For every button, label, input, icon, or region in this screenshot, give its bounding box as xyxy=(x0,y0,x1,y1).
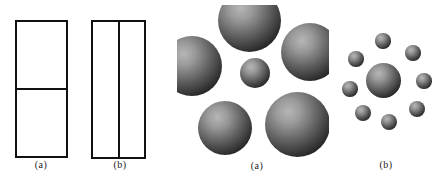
sphere xyxy=(348,51,363,66)
sphere xyxy=(240,58,270,88)
horizontal-divider-line xyxy=(17,88,66,90)
sphere xyxy=(375,33,390,48)
sphere xyxy=(198,101,252,155)
vertical-divider-line xyxy=(118,22,120,157)
packed-spheres-illustration xyxy=(177,5,329,157)
sphere xyxy=(218,5,281,52)
sphere xyxy=(265,92,330,157)
sphere xyxy=(177,36,222,96)
sphere xyxy=(281,23,329,81)
label-rect-b: (b) xyxy=(98,159,142,170)
label-packed-spheres: (a) xyxy=(235,160,279,171)
sphere xyxy=(381,114,397,130)
sphere xyxy=(405,45,420,60)
divided-rectangle xyxy=(91,20,146,159)
sphere xyxy=(366,63,401,98)
figure-canvas: (a) (b) (a) (b) xyxy=(0,0,445,184)
divided-rectangle xyxy=(15,20,68,158)
sphere xyxy=(342,81,357,96)
sphere xyxy=(355,105,371,121)
label-dispersed-spheres: (b) xyxy=(364,159,408,170)
label-rect-a: (a) xyxy=(19,159,63,170)
sphere xyxy=(416,73,431,88)
sphere xyxy=(409,101,425,117)
